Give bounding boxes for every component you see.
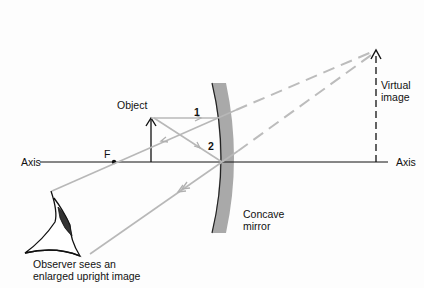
object-label: Object bbox=[117, 99, 147, 111]
virtual-image-label-line1: Virtual bbox=[381, 79, 411, 91]
ray-1-label: 1 bbox=[194, 106, 200, 118]
ray-2-label: 2 bbox=[208, 140, 214, 152]
virtual-image-label: Virtual image bbox=[381, 79, 411, 103]
virtual-ray-1 bbox=[236, 51, 374, 110]
concave-mirror-label-line1: Concave bbox=[243, 208, 284, 220]
ray-1-reflected-arrow-icon bbox=[161, 137, 168, 142]
concave-mirror-label-line2: mirror bbox=[243, 220, 284, 232]
observer-label-line1: Observer sees an bbox=[33, 258, 140, 270]
observer-label-line2: enlarged upright image bbox=[33, 270, 140, 282]
ray-2-reflected bbox=[90, 162, 222, 254]
observer-eye-icon bbox=[25, 191, 80, 256]
axis-label-right: Axis bbox=[396, 156, 416, 168]
virtual-ray-2 bbox=[238, 53, 374, 151]
virtual-image-label-line2: image bbox=[381, 91, 411, 103]
concave-mirror-label: Concave mirror bbox=[243, 208, 284, 232]
ray-1-reflected bbox=[52, 118, 218, 191]
observer-label: Observer sees an enlarged upright image bbox=[33, 258, 140, 282]
concave-mirror-diagram: Object 1 2 F Axis Axis Virtual image Con… bbox=[0, 0, 424, 288]
axis-label-left: Axis bbox=[21, 156, 41, 168]
focal-point-label: F bbox=[104, 148, 110, 160]
